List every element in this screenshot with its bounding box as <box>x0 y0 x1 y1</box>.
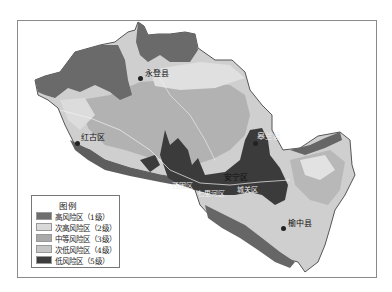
map-legend: 图例 高风险区（1级） 次高风险区（2级） 中等风险区（3级） 次低风险区（4级… <box>31 195 120 268</box>
place-label-xigu: 西固区 <box>172 183 193 190</box>
place-label-chengguan: 城关区 <box>237 187 258 194</box>
place-dot-honggu <box>75 141 80 146</box>
legend-label-level-3: 中等风险区（3级） <box>55 233 116 244</box>
legend-item-level-4: 次低风险区（4级） <box>36 244 116 254</box>
legend-swatch-level-5 <box>36 256 52 264</box>
place-dot-yongdeng <box>138 76 143 81</box>
place-label-yuzhong: 榆中县 <box>288 220 312 228</box>
place-label-honggu: 红古区 <box>81 134 105 142</box>
legend-label-level-2: 次高风险区（2级） <box>55 222 116 233</box>
place-label-yongdeng: 永登县 <box>145 70 169 78</box>
place-dot-gaolan <box>253 141 258 146</box>
legend-swatch-level-3 <box>36 234 52 242</box>
legend-label-level-1: 高风险区（1级） <box>55 211 109 222</box>
place-label-gaolan: 皋兰县 <box>257 133 281 141</box>
legend-label-level-4: 次低风险区（4级） <box>55 244 116 255</box>
legend-swatch-level-1 <box>36 212 52 220</box>
legend-item-level-3: 中等风险区（3级） <box>36 233 116 243</box>
legend-item-level-5: 低风险区（5级） <box>36 255 109 265</box>
legend-title: 图例 <box>59 199 77 211</box>
legend-item-level-1: 高风险区（1级） <box>36 211 109 221</box>
place-dot-yuzhong <box>281 226 286 231</box>
legend-label-level-5: 低风险区（5级） <box>55 255 109 266</box>
legend-item-level-2: 次高风险区（2级） <box>36 222 116 232</box>
place-label-qilihe: 七里河区 <box>197 191 225 198</box>
place-label-anning: 安宁区 <box>224 174 248 182</box>
legend-swatch-level-4 <box>36 245 52 253</box>
legend-swatch-level-2 <box>36 223 52 231</box>
